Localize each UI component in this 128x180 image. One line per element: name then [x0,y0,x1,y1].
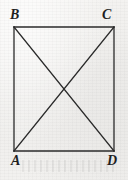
vertex-label-d: D [107,154,117,168]
vertex-label-b: B [10,8,19,22]
vertex-label-c: C [102,8,111,22]
vertex-label-a: A [11,154,20,168]
figure-canvas: B C A D [0,0,128,180]
